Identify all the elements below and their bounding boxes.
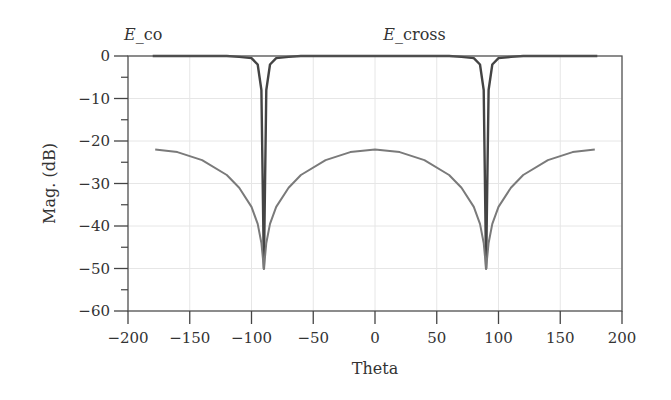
y-axis-ticks: 0−10−20−30−40−50−60 (78, 47, 128, 320)
series-labels: E_coE_cross (123, 25, 446, 44)
x-tick-label: −200 (107, 329, 148, 347)
x-tick-label: 150 (546, 329, 575, 347)
grid-lines (128, 56, 622, 311)
x-tick-label: −50 (297, 329, 329, 347)
x-tick-label: 50 (427, 329, 446, 347)
x-tick-label: 200 (608, 329, 637, 347)
series-label: E_co (123, 25, 162, 44)
x-axis-title: Theta (352, 359, 399, 378)
chart: −200−150−100−50050100150200 0−10−20−30−4… (0, 0, 671, 400)
y-tick-label: −30 (78, 175, 110, 193)
x-axis-ticks: −200−150−100−50050100150200 (107, 311, 636, 347)
y-tick-label: −40 (78, 217, 110, 235)
y-tick-label: −20 (78, 132, 110, 150)
y-tick-label: −10 (78, 90, 110, 108)
y-tick-label: 0 (100, 47, 110, 65)
x-tick-label: −150 (169, 329, 210, 347)
y-tick-label: −50 (78, 260, 110, 278)
x-tick-label: −100 (231, 329, 272, 347)
y-axis-title: Mag. (dB) (40, 143, 59, 224)
y-tick-label: −60 (78, 302, 110, 320)
x-tick-label: 100 (484, 329, 513, 347)
x-tick-label: 0 (370, 329, 380, 347)
series-label: E_cross (382, 25, 445, 44)
